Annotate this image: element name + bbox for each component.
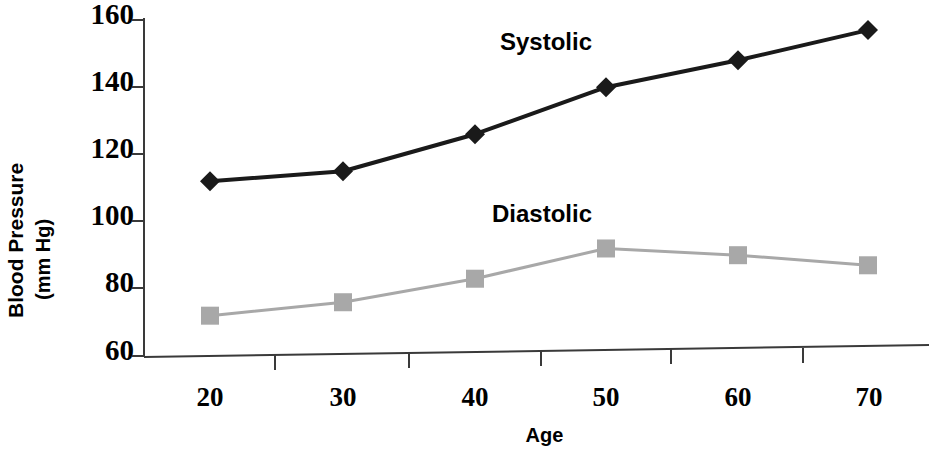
data-point-marker — [729, 246, 747, 264]
x-axis-line — [144, 345, 929, 357]
data-point-marker — [465, 124, 485, 144]
data-point-marker — [466, 270, 484, 288]
data-point-marker — [858, 20, 878, 40]
data-point-marker — [201, 307, 219, 325]
series-line-diastolic — [201, 239, 877, 324]
plot-area — [0, 0, 929, 452]
data-point-marker — [596, 77, 616, 97]
data-point-marker — [859, 256, 877, 274]
series-path — [210, 248, 868, 315]
blood-pressure-line-chart: Blood Pressure (mm Hg) 160 140 120 100 8… — [0, 0, 929, 452]
data-point-marker — [334, 293, 352, 311]
data-point-marker — [200, 171, 220, 191]
axes-layer — [132, 18, 929, 370]
data-point-marker — [333, 161, 353, 181]
data-point-marker — [597, 239, 615, 257]
y-tick-marks — [132, 20, 144, 356]
series-layer — [200, 20, 878, 325]
series-path — [210, 30, 868, 181]
data-point-marker — [728, 50, 748, 70]
series-line-systolic — [200, 20, 878, 191]
